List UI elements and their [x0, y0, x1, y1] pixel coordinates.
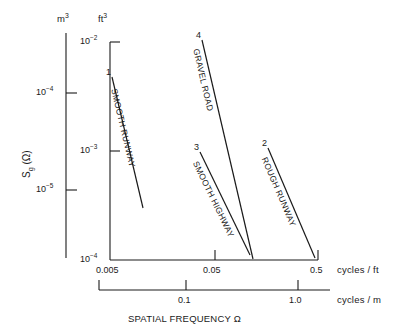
x-tick-label-0005: 0.005 — [96, 266, 119, 275]
y-axis-title: Sg (Ω) — [22, 150, 34, 178]
ft3-tick-label-1e-2: 10−2 — [80, 37, 97, 46]
m3-tick-label-1e-4: 10−4 — [36, 88, 53, 97]
series-number-2: 2 — [262, 139, 267, 148]
series-line-2-rough-runway — [268, 148, 315, 258]
x2-tick-label-10: 1.0 — [289, 296, 302, 305]
m3-unit-header: m3 — [57, 14, 69, 24]
spatial-frequency-psd-chart: m3 ft3 10−4 10−5 10−2 10−3 10−4 Sg (Ω) 0… — [0, 0, 398, 333]
cycles-per-m-axis-line — [99, 280, 330, 290]
cycles-per-ft-unit-label: cycles / ft — [337, 265, 379, 275]
x2-tick-label-01: 0.1 — [178, 296, 191, 305]
ft3-axis-line — [110, 42, 120, 260]
cycles-per-ft-axis-line — [110, 250, 318, 260]
series-line-3-smooth-highway — [200, 152, 250, 255]
ft3-tick-label-1e-3: 10−3 — [80, 146, 97, 155]
m3-axis-line — [66, 33, 77, 258]
ft3-unit-header: ft3 — [98, 14, 107, 24]
x-tick-label-05: 0.5 — [310, 266, 323, 275]
x-axis-title: SPATIAL FREQUENCY Ω — [128, 314, 241, 324]
series-number-1: 1 — [106, 68, 111, 77]
ft3-tick-label-1e-4: 10−4 — [80, 255, 97, 264]
m3-tick-label-1e-5: 10−5 — [36, 185, 53, 194]
series-number-3: 3 — [194, 143, 199, 152]
cycles-per-m-unit-label: cycles / m — [337, 295, 381, 305]
x-tick-label-005: 0.05 — [203, 266, 221, 275]
series-number-4: 4 — [196, 31, 201, 40]
